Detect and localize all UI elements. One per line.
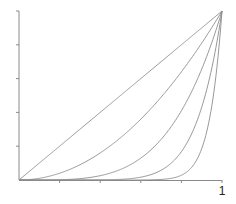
curve-group — [19, 11, 222, 180]
curve-power-1 — [19, 11, 222, 180]
x-axis: 1 — [19, 180, 226, 198]
y-axis — [16, 11, 19, 180]
power-curves-chart: 1 — [0, 0, 236, 204]
x-axis-end-label: 1 — [219, 184, 226, 198]
